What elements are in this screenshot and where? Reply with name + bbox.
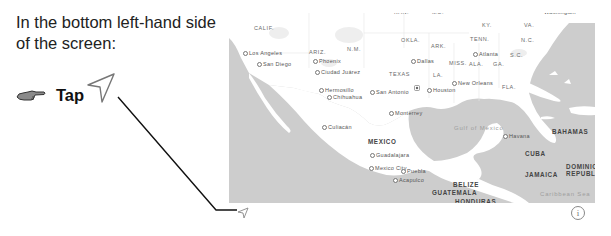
label-state: GA. <box>493 61 504 67</box>
label-country: BELIZE <box>453 181 479 188</box>
label-state: N.M. <box>347 46 361 52</box>
label-country: JAMAICA <box>525 171 558 178</box>
label-country: BAHAMAS <box>552 128 588 135</box>
instruction-text: In the bottom left-hand side of the scre… <box>16 12 226 54</box>
label-state: N.C. <box>521 37 534 43</box>
label-city: Atlanta <box>473 51 498 57</box>
label-country: GUATEMALA <box>432 189 477 196</box>
label-city: New Orleans <box>452 80 493 86</box>
label-state: ALA. <box>469 61 483 67</box>
label-city: Ciudad Juárez <box>315 69 360 75</box>
label-state: TENN. <box>470 36 490 42</box>
label-city: Acapulco <box>393 177 424 183</box>
label-city: Dallas <box>411 58 434 64</box>
label-city: Culiacán <box>322 124 352 130</box>
map-view[interactable]: CALIF. ARIZ. N.M. OKLA. TEXAS ARK. LA. M… <box>229 13 595 203</box>
label-country: HONDURAS <box>455 198 496 203</box>
label-country: DOMINICAN REPUBLIC <box>566 163 595 177</box>
label-state: ARK. <box>431 43 446 49</box>
label-state: FLA. <box>502 84 516 90</box>
pointing-hand-icon <box>16 88 46 104</box>
label-state: MISS. <box>449 60 467 66</box>
label-city: Phoenix <box>313 58 341 64</box>
label-city: Puebla <box>401 168 426 174</box>
label-country: CUBA <box>525 150 546 157</box>
label-state: KAN. <box>394 13 409 15</box>
label-state: ARIZ. <box>309 49 326 55</box>
current-location-button[interactable] <box>237 207 249 219</box>
label-state: OKLA. <box>401 37 420 43</box>
label-state: CALIF. <box>254 25 274 31</box>
tap-instruction: Tap <box>16 86 84 105</box>
label-state: LA. <box>433 72 443 78</box>
label-country: MEXICO <box>368 138 396 145</box>
label-state: KY. <box>482 22 492 28</box>
label-state: MO. <box>432 13 444 15</box>
label-city: San Antonio <box>370 89 409 95</box>
label-state: VA. <box>524 22 534 28</box>
label-city: Washington <box>544 13 576 15</box>
label-state: S.C. <box>510 52 523 58</box>
label-city: Havana <box>503 133 530 139</box>
label-water: Caribbean Sea <box>540 191 590 197</box>
label-city: Hermosillo <box>319 87 354 93</box>
label-city: San Diego <box>257 61 291 67</box>
label-water: Gulf of Mexico <box>454 125 504 131</box>
label-city: Houston <box>427 87 456 93</box>
location-marker-icon <box>414 85 420 91</box>
label-city: Los Angeles <box>243 50 282 56</box>
tap-label: Tap <box>56 86 84 105</box>
label-city: Guadalajara <box>370 152 409 158</box>
label-city: Chihuahua <box>327 94 362 100</box>
label-state: TEXAS <box>389 71 410 77</box>
location-arrow-icon <box>86 72 116 104</box>
label-city: Monterrey <box>389 110 422 116</box>
info-button[interactable]: i <box>571 206 585 220</box>
